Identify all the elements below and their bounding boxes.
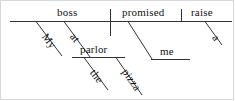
word-indirect-object: me	[160, 46, 174, 57]
me-indirect-object-slant	[128, 22, 152, 60]
word-verb: promised	[122, 7, 165, 18]
word-prep-object: parlor	[80, 44, 107, 55]
sentence-diagram: boss promised raise parlor me My at the …	[0, 0, 235, 101]
word-direct-object: raise	[191, 7, 213, 18]
word-subject: boss	[57, 7, 77, 18]
